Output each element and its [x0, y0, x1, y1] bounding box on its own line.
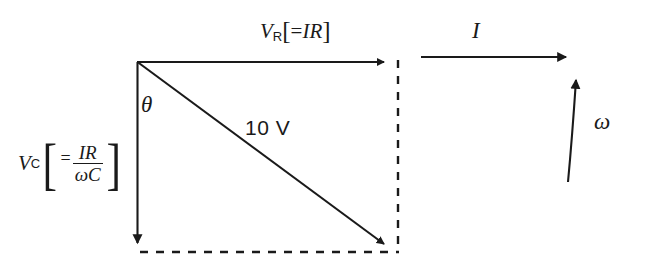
label-vc-denominator: ωC — [73, 164, 103, 184]
label-current: I — [472, 19, 480, 42]
label-vr-bracket-close: ] — [322, 17, 330, 44]
label-amplitude: 10 V — [245, 117, 290, 138]
label-vr: VR[=IR] — [260, 18, 331, 43]
vector-resultant — [138, 62, 385, 244]
label-vc-variable: V — [18, 153, 31, 174]
label-vc-frac: IR ωC — [73, 143, 103, 184]
label-vr-expression: IR — [302, 19, 322, 43]
label-vc-equals: = — [61, 149, 71, 167]
label-vc-fraction: = IR ωC — [61, 143, 103, 184]
label-vr-equals: = — [291, 19, 303, 43]
vector-omega — [568, 80, 576, 182]
label-vr-bracket-open: [ — [282, 17, 290, 44]
phasor-diagram-figure: VR[=IR] VC[ = IR ωC ] θ 10 V I ω — [0, 0, 645, 261]
label-vr-subscript: R — [273, 29, 282, 44]
label-theta: θ — [141, 93, 152, 116]
label-vc-subscript: C — [31, 157, 40, 170]
label-vc-bracket-open: [ — [43, 140, 57, 188]
label-vr-variable: V — [260, 19, 273, 43]
label-vc: VC[ = IR ωC ] — [18, 140, 123, 188]
label-omega: ω — [594, 110, 610, 133]
label-vc-numerator: IR — [77, 143, 99, 163]
label-vc-bracket-close: ] — [106, 140, 120, 188]
